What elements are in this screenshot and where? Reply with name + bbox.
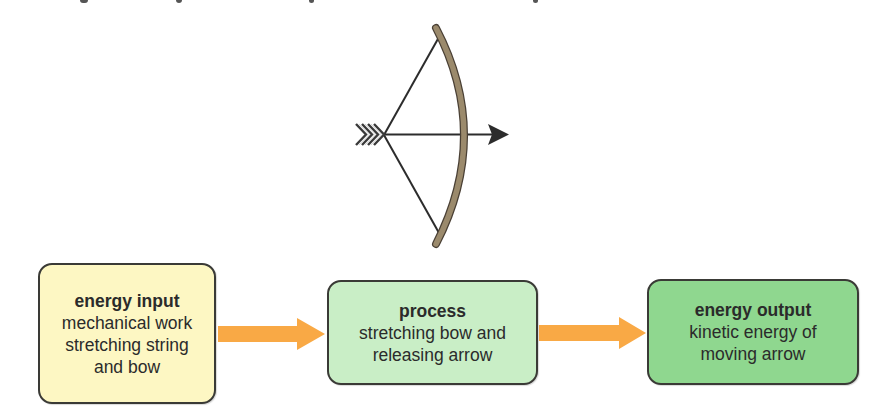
- energy-output-title: energy output: [695, 299, 812, 321]
- arrow-icon: [356, 124, 509, 145]
- energy-input-line: stretching string: [65, 334, 189, 356]
- bow-limb-icon: [436, 28, 464, 244]
- process-line: releasing arrow: [373, 344, 493, 366]
- process-line: stretching bow and: [359, 322, 506, 344]
- energy-input-box: energy input mechanical work stretching …: [38, 263, 216, 404]
- energy-output-box: energy output kinetic energy of moving a…: [647, 279, 859, 385]
- connector-arrow-input-to-process: [218, 318, 325, 350]
- energy-input-line: mechanical work: [62, 312, 192, 334]
- energy-output-line: moving arrow: [700, 343, 805, 365]
- process-title: process: [399, 300, 466, 322]
- connector-arrow-process-to-output: [539, 317, 646, 349]
- energy-input-title: energy input: [74, 290, 179, 312]
- energy-input-line: and bow: [94, 356, 160, 378]
- process-box: process stretching bow and releasing arr…: [327, 280, 538, 385]
- energy-output-line: kinetic energy of: [689, 321, 816, 343]
